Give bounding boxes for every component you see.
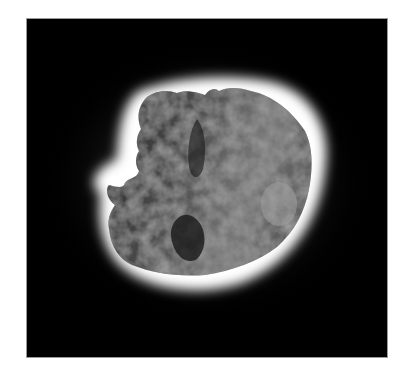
bright-patch — [261, 182, 297, 226]
photo-frame — [27, 19, 387, 357]
comet-photo — [27, 19, 387, 357]
